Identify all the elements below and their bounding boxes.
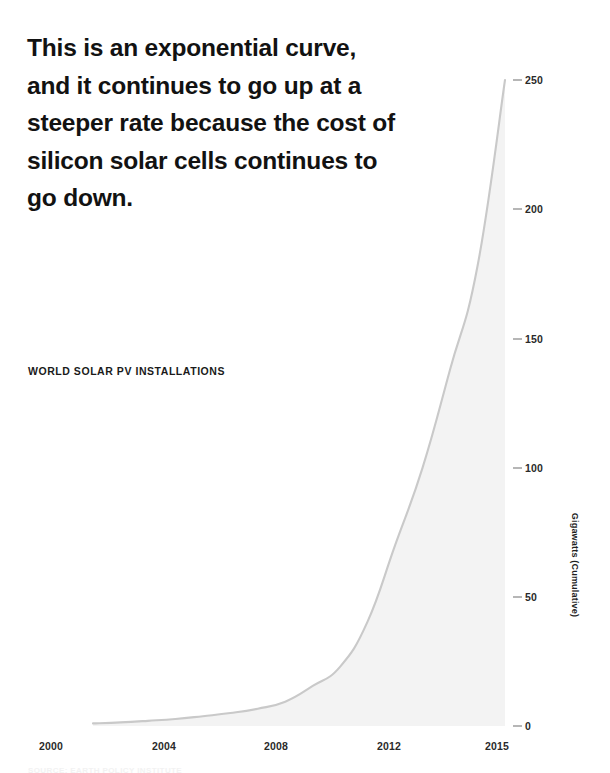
chart-plot-area <box>0 0 610 773</box>
y-tick-mark-150 <box>513 339 522 340</box>
chart-page: This is an exponential curve, and it con… <box>0 0 610 773</box>
y-tick-mark-50 <box>513 597 522 598</box>
y-tick-mark-0 <box>513 726 522 727</box>
y-tick-label-150: 150 <box>525 333 543 345</box>
y-tick-mark-200 <box>513 209 522 210</box>
y-tick-label-100: 100 <box>525 462 543 474</box>
x-tick-label-2015: 2015 <box>485 740 509 752</box>
solar-pv-chart: WORLD SOLAR PV INSTALLATIONS 250 200 150… <box>0 0 610 773</box>
y-axis-title: Gigawatts (Cumulative) <box>570 513 580 617</box>
y-tick-label-0: 0 <box>525 720 531 732</box>
y-tick-label-200: 200 <box>525 203 543 215</box>
x-tick-label-2008: 2008 <box>264 740 288 752</box>
x-tick-label-2000: 2000 <box>39 740 63 752</box>
source-credit: SOURCE: EARTH POLICY INSTITUTE <box>28 766 182 773</box>
x-tick-label-2012: 2012 <box>377 740 401 752</box>
area-fill-path <box>93 80 505 726</box>
y-tick-mark-100 <box>513 468 522 469</box>
x-tick-label-2004: 2004 <box>152 740 176 752</box>
y-tick-mark-250 <box>513 80 522 81</box>
y-tick-label-250: 250 <box>525 74 543 86</box>
y-tick-label-50: 50 <box>525 591 537 603</box>
